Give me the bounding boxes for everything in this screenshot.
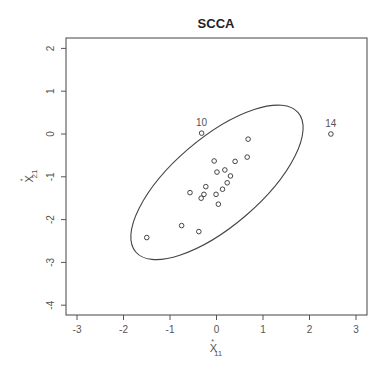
x-tick-label: 1 [260, 324, 266, 335]
y-tick-label: 2 [45, 45, 56, 51]
data-point [216, 202, 221, 207]
data-point [233, 159, 238, 164]
y-tick-label: 1 [45, 88, 56, 94]
data-point [199, 196, 204, 201]
data-point [144, 235, 149, 240]
point-label: 14 [325, 118, 337, 129]
plot-area [66, 38, 367, 315]
y-axis-label: X*21 [19, 169, 39, 183]
data-point [188, 190, 193, 195]
point-label: 10 [196, 117, 208, 128]
y-axis-label-sup: * [19, 178, 26, 181]
x-tick-label: 2 [307, 324, 313, 335]
x-tick-label: -3 [73, 324, 82, 335]
ellipse-outline [107, 79, 327, 285]
y-axis: -4-3-2-1012 [45, 45, 66, 309]
confidence-ellipse [107, 79, 327, 285]
data-point [329, 132, 334, 137]
x-axis-label: X*11 [210, 338, 223, 358]
data-point [214, 192, 219, 197]
x-tick-label: -2 [119, 324, 128, 335]
data-point [223, 168, 228, 173]
data-point [220, 187, 225, 192]
chart-title: SCCA [198, 16, 235, 31]
scatter-chart: SCCA -3-2-10123 -4-3-2-1012 1014 X*11 X*… [0, 0, 386, 374]
x-tick-label: 3 [353, 324, 359, 335]
data-point [215, 170, 220, 175]
data-point [179, 223, 184, 228]
y-tick-label: -4 [45, 300, 56, 309]
x-axis: -3-2-10123 [73, 315, 360, 335]
data-point [225, 180, 230, 185]
x-axis-label-sub: 11 [214, 349, 223, 358]
data-point [246, 137, 251, 142]
data-point [212, 159, 217, 164]
y-tick-label: -3 [45, 258, 56, 267]
y-tick-label: -1 [45, 172, 56, 181]
x-axis-label-sup: * [211, 338, 214, 345]
x-tick-label: 0 [214, 324, 220, 335]
y-tick-label: -2 [45, 215, 56, 224]
x-tick-label: -1 [166, 324, 175, 335]
data-point [199, 131, 204, 136]
data-point [197, 229, 202, 234]
data-point [245, 155, 250, 160]
y-tick-label: 0 [45, 131, 56, 137]
data-points: 1014 [144, 117, 336, 240]
data-point [228, 174, 233, 179]
y-axis-label-sub: 21 [30, 169, 39, 178]
data-point [204, 184, 209, 189]
